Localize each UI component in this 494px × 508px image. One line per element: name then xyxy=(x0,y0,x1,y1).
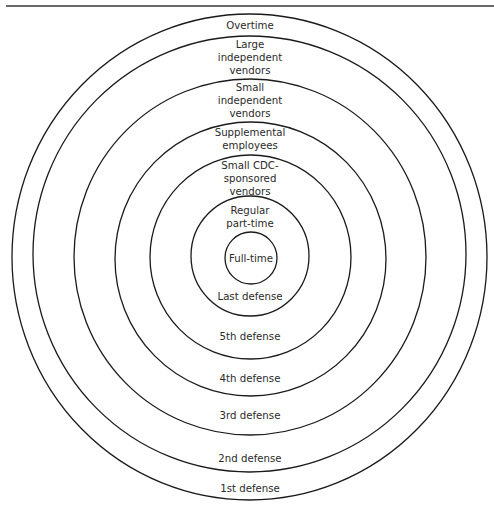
label-line: Full-time xyxy=(229,252,273,265)
label-4th-defense: 4th defense xyxy=(220,372,281,385)
label-line: sponsored xyxy=(221,172,278,185)
label-small-independent-vendors: Small independent vendors xyxy=(218,81,282,120)
label-line: vendors xyxy=(218,64,282,77)
label-line: independent xyxy=(218,51,282,64)
label-small-cdc-sponsored-vendors: Small CDC- sponsored vendors xyxy=(221,159,278,198)
label-line: employees xyxy=(215,139,286,152)
label-line: Large xyxy=(218,38,282,51)
label-2nd-defense: 2nd defense xyxy=(218,452,281,465)
label-line: vendors xyxy=(221,185,278,198)
label-overtime: Overtime xyxy=(226,19,274,32)
label-line: vendors xyxy=(218,107,282,120)
label-last-defense: Last defense xyxy=(217,290,282,303)
label-line: Small xyxy=(218,81,282,94)
label-line: Supplemental xyxy=(215,126,286,139)
label-3rd-defense: 3rd defense xyxy=(220,409,281,422)
label-line: Regular xyxy=(226,204,274,217)
label-line: Overtime xyxy=(226,19,274,32)
label-supplemental-employees: Supplemental employees xyxy=(215,126,286,152)
label-line: part-time xyxy=(226,217,274,230)
label-regular-part-time: Regular part-time xyxy=(226,204,274,230)
label-5th-defense: 5th defense xyxy=(220,330,281,343)
label-1st-defense: 1st defense xyxy=(220,482,280,495)
label-line: independent xyxy=(218,94,282,107)
label-line: Small CDC- xyxy=(221,159,278,172)
label-large-independent-vendors: Large independent vendors xyxy=(218,38,282,77)
label-full-time: Full-time xyxy=(229,252,273,265)
